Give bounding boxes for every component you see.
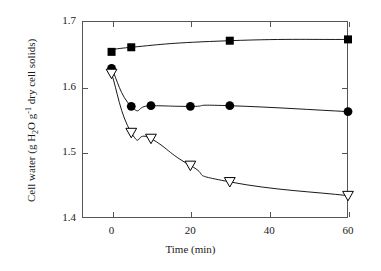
x-tick-label: 60: [328, 224, 368, 237]
chart-figure: 02040601.41.51.61.7 Time (min) Cell wate…: [0, 0, 381, 271]
x-tick-mark: [113, 212, 114, 217]
x-tick-label: 0: [92, 224, 132, 237]
y-axis-label-mid: O g: [25, 114, 37, 130]
x-tick-mark-top: [113, 22, 114, 27]
x-tick-label: 20: [170, 224, 210, 237]
x-tick-mark: [191, 212, 192, 217]
y-tick-label: 1.7: [42, 14, 76, 27]
x-tick-mark: [349, 212, 350, 217]
x-tick-label: 40: [249, 224, 289, 237]
x-tick-mark-top: [270, 22, 271, 27]
x-tick-mark-top: [191, 22, 192, 27]
y-axis-label: Cell water (g H2O g-1 dry cell solids): [24, 10, 41, 230]
y-tick-mark-right: [342, 153, 347, 154]
y-axis-label-sup: -1: [24, 107, 33, 114]
y-axis-label-sub: 2: [31, 130, 40, 134]
y-tick-mark: [83, 153, 88, 154]
x-axis-label: Time (min): [0, 243, 381, 255]
y-tick-mark: [83, 88, 88, 89]
y-tick-label: 1.4: [42, 211, 76, 224]
y-tick-label: 1.6: [42, 80, 76, 93]
x-tick-mark: [270, 212, 271, 217]
plot-area: [82, 21, 348, 218]
y-axis-label-pre: Cell water (g H: [25, 134, 37, 202]
y-axis-label-post: dry cell solids): [25, 39, 37, 107]
x-tick-mark-top: [349, 22, 350, 27]
y-tick-mark-right: [342, 88, 347, 89]
y-tick-label: 1.5: [42, 145, 76, 158]
